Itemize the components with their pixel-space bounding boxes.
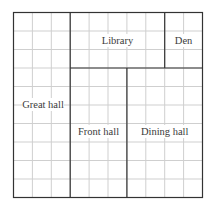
room-label-dining-hall: Dining hall	[141, 126, 189, 137]
room-label-front-hall: Front hall	[78, 126, 119, 137]
room-label-library: Library	[102, 35, 134, 46]
room-label-den: Den	[175, 35, 193, 46]
room-label-great-hall: Great hall	[22, 99, 64, 110]
floor-plan: Great hall Library Den Front hall Dining…	[0, 0, 212, 207]
